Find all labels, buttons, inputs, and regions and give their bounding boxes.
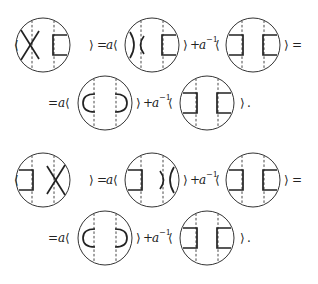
angle-close: ⟩: [89, 173, 94, 187]
diagram-smoothing-left: [125, 18, 179, 72]
period: .: [247, 96, 251, 110]
diagram-crossing-left: [16, 18, 70, 72]
angle-open: ⟨: [168, 231, 173, 245]
eq2-line2: = a ⟨ ⟩ + a −1 ⟨ ⟩ .: [48, 211, 251, 265]
angle-close: ⟩: [183, 38, 188, 52]
diagram-two-bars: [180, 76, 234, 130]
angle-close: ⟩: [183, 173, 188, 187]
diagram-crossing-right: [16, 153, 70, 207]
equals-sign: =: [292, 173, 302, 187]
eq2-line1: ⟨ ⟩ = a ⟨ ⟩ + a −1 ⟨ ⟩ =: [14, 153, 302, 207]
diagram-two-bars: [226, 18, 280, 72]
diagram-caps-outward: [78, 76, 132, 130]
eq1-line1: ⟨ ⟩ = a ⟨ ⟩ + a −1 ⟨ ⟩ =: [14, 18, 302, 72]
equals-sign: =: [48, 231, 58, 245]
angle-open: ⟨: [65, 96, 70, 110]
angle-open: ⟨: [65, 231, 70, 245]
angle-close: ⟩: [240, 231, 245, 245]
diagram-two-bars: [226, 153, 280, 207]
angle-close: ⟩: [136, 96, 141, 110]
skein-relation-diagram: ⟨ ⟩ = a ⟨ ⟩ + a −1 ⟨ ⟩ =: [0, 0, 318, 284]
diagram-caps-outward: [78, 211, 132, 265]
angle-close: ⟩: [240, 96, 245, 110]
angle-close: ⟩: [136, 231, 141, 245]
angle-open: ⟨: [215, 38, 220, 52]
angle-open: ⟨: [113, 38, 118, 52]
angle-open: ⟨: [215, 173, 220, 187]
angle-open: ⟨: [113, 173, 118, 187]
eq1-line2: = a ⟨ ⟩ + a −1 ⟨ ⟩ .: [48, 76, 251, 130]
angle-open: ⟨: [168, 96, 173, 110]
diagram-smoothing-right: [125, 153, 179, 207]
angle-close: ⟩: [284, 38, 289, 52]
angle-close: ⟩: [89, 38, 94, 52]
period: .: [247, 231, 251, 245]
diagram-two-bars: [180, 211, 234, 265]
equals-sign: =: [292, 38, 302, 52]
equals-sign: =: [48, 96, 58, 110]
angle-close: ⟩: [284, 173, 289, 187]
